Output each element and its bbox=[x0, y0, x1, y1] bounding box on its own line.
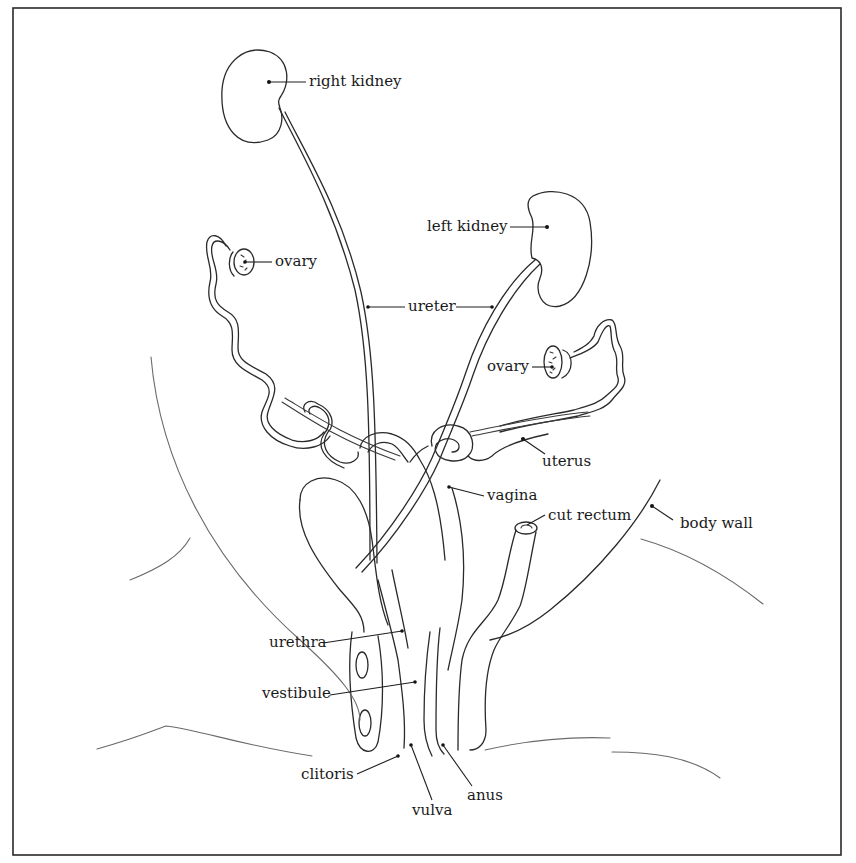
urethra-line bbox=[392, 570, 408, 648]
cut-rectum-leader bbox=[527, 515, 545, 525]
label-vulva: vulva bbox=[412, 803, 452, 818]
left-ovary-rim bbox=[229, 252, 234, 276]
pelvic-hole-upper bbox=[356, 652, 368, 678]
right-kidney-shape bbox=[222, 50, 287, 142]
label-ureter: ureter bbox=[408, 299, 456, 314]
anatomy-diagram: right kidney left kidney ovary ovary ure… bbox=[0, 0, 856, 863]
label-ovary-left: ovary bbox=[275, 254, 317, 269]
body-wall-leader bbox=[652, 506, 673, 520]
right-ligament-line-1 bbox=[470, 412, 588, 432]
rectum-outer bbox=[458, 530, 516, 750]
vestibule-right bbox=[424, 632, 432, 756]
label-vagina: vagina bbox=[487, 488, 537, 503]
body-wall-left-short bbox=[130, 538, 190, 580]
left-ligament-line-2 bbox=[285, 398, 400, 456]
left-ligament-line-1 bbox=[282, 402, 395, 460]
label-left-kidney: left kidney bbox=[427, 219, 508, 234]
vagina-outline bbox=[448, 488, 464, 670]
bladder-lower bbox=[299, 500, 364, 632]
right-ureter bbox=[279, 108, 370, 560]
cut-rectum-end bbox=[515, 522, 537, 534]
body-wall-right-bottom-2 bbox=[612, 752, 720, 778]
label-body-wall: body wall bbox=[680, 516, 753, 531]
label-vestibule: vestibule bbox=[262, 686, 331, 701]
pelvic-hole-lower bbox=[359, 710, 371, 736]
label-clitoris: clitoris bbox=[301, 767, 354, 782]
label-urethra: urethra bbox=[269, 635, 327, 650]
label-anus: anus bbox=[467, 788, 503, 803]
right-ovary-rim bbox=[562, 350, 571, 378]
vestibule-right-2 bbox=[436, 628, 444, 754]
anus-leader bbox=[443, 745, 472, 786]
label-uterus: uterus bbox=[542, 454, 591, 469]
label-cut-rectum: cut rectum bbox=[548, 508, 631, 523]
right-ovary-shape bbox=[544, 346, 562, 378]
body-wall-right-arc bbox=[490, 480, 660, 640]
left-kidney-shape bbox=[528, 192, 592, 307]
diagram-drawing bbox=[0, 0, 856, 863]
body-wall-right-bottom-1 bbox=[485, 738, 610, 750]
body-wall-right-short bbox=[641, 539, 763, 604]
figure-frame bbox=[13, 8, 841, 855]
right-ovary-texture bbox=[549, 352, 556, 373]
left-horn-loop-1 bbox=[304, 402, 359, 464]
urethra-leader bbox=[323, 631, 402, 643]
vulva-leader bbox=[411, 745, 432, 800]
cut-rectum-inner bbox=[521, 525, 532, 528]
clitoris-leader bbox=[357, 756, 398, 774]
label-right-kidney: right kidney bbox=[309, 74, 402, 89]
label-ovary-right: ovary bbox=[487, 359, 529, 374]
rectum-inner bbox=[470, 532, 536, 750]
body-wall-left-bottom bbox=[97, 726, 312, 756]
right-oviduct-inner bbox=[500, 326, 618, 426]
